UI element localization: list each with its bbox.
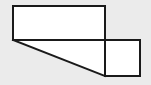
top-rectangle-fill bbox=[13, 6, 105, 40]
bottom-right-square-fill bbox=[105, 40, 140, 76]
figure-canvas bbox=[0, 0, 151, 85]
geometric-figure bbox=[0, 0, 151, 85]
